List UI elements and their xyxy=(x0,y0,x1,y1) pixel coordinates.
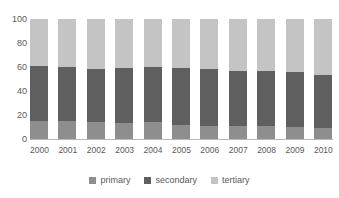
y-axis-tick-label: 40 xyxy=(0,87,27,96)
x-axis-tick-label: 2003 xyxy=(115,145,133,156)
bar-segment-secondary[interactable] xyxy=(314,75,332,128)
y-axis-tick-labels: 100806040200 xyxy=(0,0,27,198)
bar-segment-tertiary[interactable] xyxy=(314,19,332,75)
bar-segment-primary[interactable] xyxy=(229,126,247,139)
legend-entry[interactable]: primary xyxy=(89,175,130,185)
y-axis-tick-label: 100 xyxy=(0,15,27,24)
bar-segment-secondary[interactable] xyxy=(172,68,190,124)
bar-segment-tertiary[interactable] xyxy=(115,19,133,68)
bar-segment-secondary[interactable] xyxy=(30,66,48,121)
bar-column[interactable] xyxy=(229,19,247,139)
bar-segment-secondary[interactable] xyxy=(257,71,275,126)
bar-segment-tertiary[interactable] xyxy=(286,19,304,72)
x-axis-tick-labels: 2000200120022003200420052006200720082009… xyxy=(30,145,332,156)
bar-segment-secondary[interactable] xyxy=(200,69,218,125)
x-axis-tick-label: 2007 xyxy=(229,145,247,156)
x-axis-tick-label: 2001 xyxy=(58,145,76,156)
bar-segment-primary[interactable] xyxy=(257,126,275,139)
chart-legend: primarysecondarytertiary xyxy=(0,175,339,185)
bar-column[interactable] xyxy=(172,19,190,139)
bar-segment-primary[interactable] xyxy=(200,126,218,139)
y-axis-tick-label: 60 xyxy=(0,63,27,72)
bar-column[interactable] xyxy=(200,19,218,139)
y-axis-tick-label: 80 xyxy=(0,39,27,48)
bar-column[interactable] xyxy=(87,19,105,139)
x-axis-tick-label: 2006 xyxy=(200,145,218,156)
bar-segment-secondary[interactable] xyxy=(286,72,304,127)
bar-segment-primary[interactable] xyxy=(115,123,133,139)
bar-segment-tertiary[interactable] xyxy=(87,19,105,69)
bar-segment-tertiary[interactable] xyxy=(30,19,48,66)
legend-label: tertiary xyxy=(222,175,250,185)
bar-column[interactable] xyxy=(286,19,304,139)
x-axis-tick-label: 2005 xyxy=(172,145,190,156)
bars-layer xyxy=(30,19,332,139)
bar-segment-primary[interactable] xyxy=(172,125,190,139)
legend-swatch-icon xyxy=(144,177,151,184)
legend-swatch-icon xyxy=(89,177,96,184)
bar-segment-tertiary[interactable] xyxy=(229,19,247,71)
stacked-bar-chart: 100806040200 200020012002200320042005200… xyxy=(0,0,339,198)
bar-column[interactable] xyxy=(30,19,48,139)
legend-entry[interactable]: secondary xyxy=(144,175,197,185)
legend-label: primary xyxy=(100,175,130,185)
bar-segment-tertiary[interactable] xyxy=(144,19,162,67)
bar-column[interactable] xyxy=(58,19,76,139)
legend-label: secondary xyxy=(155,175,197,185)
bar-segment-primary[interactable] xyxy=(30,121,48,139)
x-axis-tick-label: 2000 xyxy=(30,145,48,156)
x-axis-line xyxy=(30,139,333,140)
bar-segment-secondary[interactable] xyxy=(115,68,133,123)
bar-segment-primary[interactable] xyxy=(314,128,332,139)
bar-column[interactable] xyxy=(257,19,275,139)
bar-segment-primary[interactable] xyxy=(144,122,162,139)
x-axis-tick-label: 2009 xyxy=(286,145,304,156)
bar-column[interactable] xyxy=(314,19,332,139)
bar-segment-secondary[interactable] xyxy=(87,69,105,122)
legend-entry[interactable]: tertiary xyxy=(211,175,250,185)
y-axis-tick-label: 0 xyxy=(0,135,27,144)
legend-swatch-icon xyxy=(211,177,218,184)
x-axis-tick-label: 2004 xyxy=(144,145,162,156)
bar-segment-tertiary[interactable] xyxy=(172,19,190,68)
bar-segment-tertiary[interactable] xyxy=(200,19,218,69)
bar-segment-primary[interactable] xyxy=(58,121,76,139)
bar-segment-tertiary[interactable] xyxy=(257,19,275,71)
y-axis-tick-label: 20 xyxy=(0,111,27,120)
x-axis-tick-label: 2008 xyxy=(257,145,275,156)
bar-segment-secondary[interactable] xyxy=(58,67,76,121)
plot-area xyxy=(30,19,332,139)
bar-segment-tertiary[interactable] xyxy=(58,19,76,67)
bar-segment-primary[interactable] xyxy=(87,122,105,139)
bar-column[interactable] xyxy=(144,19,162,139)
bar-segment-secondary[interactable] xyxy=(229,71,247,126)
bar-column[interactable] xyxy=(115,19,133,139)
x-axis-tick-label: 2002 xyxy=(87,145,105,156)
x-axis-tick-label: 2010 xyxy=(314,145,332,156)
bar-segment-primary[interactable] xyxy=(286,127,304,139)
bar-segment-secondary[interactable] xyxy=(144,67,162,122)
